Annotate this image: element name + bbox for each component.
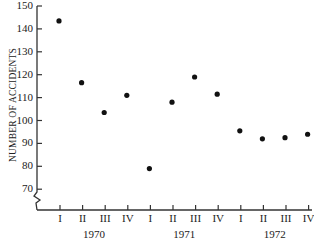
data-point [237, 128, 242, 133]
year-label: 1971 [164, 228, 204, 240]
x-tick-label: III [274, 212, 298, 224]
data-point [282, 135, 287, 140]
y-axis-line [34, 6, 40, 210]
data-point [56, 18, 61, 23]
scatter-plot [0, 0, 314, 245]
data-point [147, 166, 152, 171]
data-point [102, 110, 107, 115]
year-label: 1972 [255, 228, 295, 240]
x-tick-label: II [71, 212, 95, 224]
y-tick-label: 100 [7, 114, 33, 126]
data-point [192, 74, 197, 79]
x-tick-label: IV [116, 212, 140, 224]
data-point [79, 80, 84, 85]
x-tick-label: I [138, 212, 162, 224]
data-point [305, 132, 310, 137]
x-tick-label: III [184, 212, 208, 224]
y-tick-label: 70 [7, 182, 33, 194]
data-point [169, 100, 174, 105]
y-tick-label: 140 [7, 22, 33, 34]
data-point [215, 92, 220, 97]
x-tick-label: I [229, 212, 253, 224]
x-tick-label: I [48, 212, 72, 224]
data-point [260, 136, 265, 141]
x-tick-label: III [93, 212, 117, 224]
y-tick-label: 80 [7, 159, 33, 171]
y-tick-label: 110 [7, 91, 33, 103]
x-tick-label: IV [297, 212, 314, 224]
year-label: 1970 [74, 228, 114, 240]
x-tick-label: II [161, 212, 185, 224]
y-tick-label: 120 [7, 68, 33, 80]
x-tick-label: II [251, 212, 275, 224]
x-tick-label: IV [206, 212, 230, 224]
y-tick-label: 150 [7, 0, 33, 11]
data-point [124, 93, 129, 98]
y-tick-label: 90 [7, 136, 33, 148]
y-tick-label: 130 [7, 45, 33, 57]
